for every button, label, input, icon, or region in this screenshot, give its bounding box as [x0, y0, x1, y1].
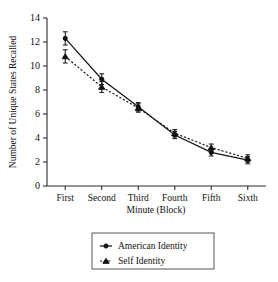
y-axis-title: Number of Unique States Recalled — [8, 36, 18, 169]
x-axis-ticks: FirstSecondThirdFourthFifthSixth — [57, 186, 258, 203]
y-tick-label: 12 — [30, 36, 40, 47]
chart-container: 02468101214 Number of Unique States Reca… — [0, 0, 278, 282]
y-tick-label: 4 — [35, 132, 40, 143]
x-tick-label: Fifth — [202, 193, 221, 203]
legend-label: Self Identity — [118, 256, 165, 266]
series-line — [65, 38, 248, 160]
line-chart: 02468101214 Number of Unique States Reca… — [0, 0, 278, 282]
y-tick-label: 0 — [35, 180, 40, 191]
x-tick-label: First — [57, 193, 75, 203]
x-axis: FirstSecondThirdFourthFifthSixth Minute … — [47, 186, 266, 216]
x-tick-label: Third — [128, 193, 149, 203]
x-tick-label: Second — [88, 193, 116, 203]
legend-marker — [104, 244, 108, 248]
data-point-marker — [63, 36, 67, 40]
x-tick-label: Fourth — [162, 193, 188, 203]
y-tick-label: 8 — [35, 84, 40, 95]
chart-legend: American IdentitySelf Identity — [92, 233, 214, 269]
data-point-marker — [100, 77, 104, 81]
x-axis-title: Minute (Block) — [127, 205, 186, 216]
data-point-marker — [208, 145, 214, 150]
y-axis-ticks: 02468101214 — [30, 12, 47, 191]
series-line — [65, 56, 248, 158]
y-tick-label: 6 — [35, 108, 40, 119]
legend-label: American Identity — [118, 241, 188, 251]
data-point-marker — [62, 54, 68, 59]
series-1 — [63, 32, 250, 164]
y-axis: 02468101214 Number of Unique States Reca… — [8, 12, 47, 191]
x-tick-label: Sixth — [238, 193, 258, 203]
series-layer — [62, 32, 251, 164]
y-tick-label: 14 — [30, 12, 40, 23]
y-tick-label: 10 — [30, 60, 40, 71]
y-tick-label: 2 — [35, 156, 40, 167]
